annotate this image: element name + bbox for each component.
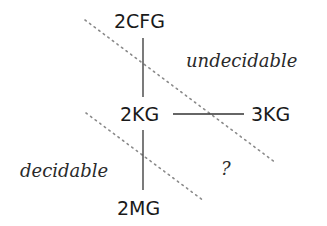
node-3kg: 3KG bbox=[251, 105, 290, 124]
region-undecidable: undecidable bbox=[186, 52, 297, 70]
region-unknown: ? bbox=[221, 160, 231, 178]
node-2cfg: 2CFG bbox=[114, 12, 165, 31]
decidability-diagram: 2CFG 2KG 3KG 2MG undecidable decidable ? bbox=[0, 0, 327, 226]
region-decidable: decidable bbox=[20, 162, 108, 180]
node-2kg: 2KG bbox=[120, 105, 159, 124]
node-2mg: 2MG bbox=[117, 199, 160, 218]
decidable-boundary-line bbox=[86, 113, 204, 201]
undecidable-boundary-line bbox=[85, 20, 276, 163]
